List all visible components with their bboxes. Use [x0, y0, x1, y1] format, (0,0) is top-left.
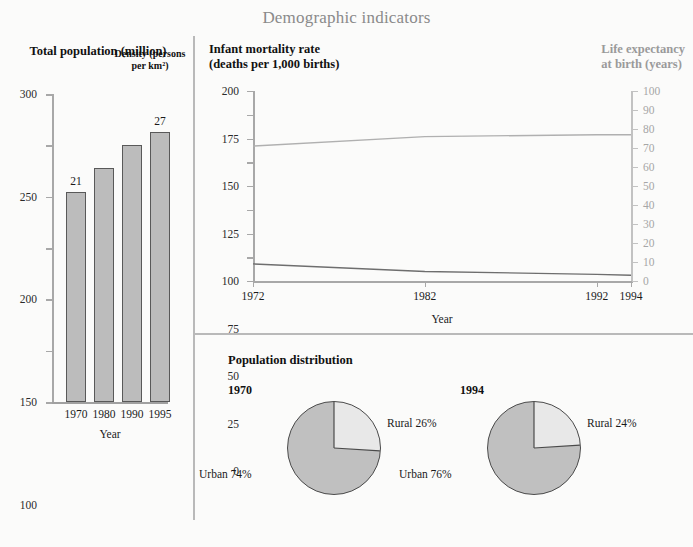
- page-title: Demographic indicators: [0, 8, 693, 28]
- pie-year-1970: 1970: [228, 383, 252, 398]
- pie-1994-urban-label: Urban 76%: [399, 468, 452, 480]
- line-x-tick-label-1992: 1992: [585, 290, 608, 302]
- line-x-axis-caption: Year: [253, 313, 631, 325]
- bar-value-label-1970: 21: [70, 175, 82, 187]
- population-distribution-panel: Population distribution 1970 Rural 26% U…: [195, 335, 693, 520]
- line-y-tick-label-left: 75: [228, 323, 240, 335]
- pie-chart-1970: [287, 401, 381, 495]
- line-y-tick-label-right: 10: [643, 256, 655, 268]
- pie-chart-1994: [487, 401, 581, 495]
- bar-y-tick-label: 200: [20, 293, 37, 305]
- line-chart-title-left-line2: (deaths per 1,000 births): [209, 57, 339, 72]
- line-y-tick-label-right: 100: [643, 85, 660, 97]
- bar-y-tick-label: 100: [20, 499, 37, 511]
- bar-x-label-1980: 1980: [93, 408, 116, 420]
- line-y-tick-label-right: 0: [643, 275, 649, 287]
- line-x-tick-label-1982: 1982: [413, 290, 436, 302]
- line-chart-title-right: Life expectancy at birth (years): [601, 42, 685, 72]
- density-annotation-text: Density (persons per km²): [115, 48, 186, 71]
- infant-mortality-life-expectancy-panel: Infant mortality rate (deaths per 1,000 …: [195, 36, 693, 333]
- bar-x-label-1970: 1970: [65, 408, 88, 420]
- pie-year-1994: 1994: [460, 383, 484, 398]
- line-series-life-expectancy-at-birth: [253, 135, 631, 146]
- bar-y-tick: 150: [46, 248, 52, 250]
- total-population-panel: Total population (million) Density (pers…: [0, 36, 193, 520]
- bar-x-label-1995: 1995: [149, 408, 172, 420]
- pie-1970-rural-label: Rural 26%: [387, 417, 437, 429]
- bar-y-tick: 100: [46, 299, 52, 301]
- content-area: Demographic indicators Total population …: [0, 0, 693, 520]
- line-chart-title-right-line1: Life expectancy: [601, 42, 685, 57]
- bar-1980: [94, 168, 114, 402]
- bar-y-tick: 300: [46, 94, 52, 96]
- line-y-tick-label-right: 80: [643, 123, 655, 135]
- bar-plot-area: 050100150200250300 1970198019901995 2127: [52, 94, 162, 404]
- line-x-tick-label-1972: 1972: [242, 290, 265, 302]
- bar-x-label-1990: 1990: [121, 408, 144, 420]
- bar-1970: [66, 192, 86, 402]
- bar-y-tick: 250: [46, 145, 52, 147]
- line-y-tick-label-left: 125: [222, 228, 239, 240]
- pie-section-title: Population distribution: [228, 353, 353, 368]
- pie-1970-urban-label: Urban 74%: [199, 468, 252, 480]
- bar-value-label-1995: 27: [154, 115, 166, 127]
- line-y-tick-label-left: 150: [222, 180, 239, 192]
- pie-separator-lines-1970: [287, 401, 381, 495]
- line-y-tick-label-left: 175: [222, 133, 239, 145]
- line-chart-title-right-line2: at birth (years): [601, 57, 685, 72]
- line-y-tick-label-left: 100: [222, 275, 239, 287]
- bar-y-tick-label: 150: [20, 396, 37, 408]
- line-y-tick-label-right: 40: [643, 199, 655, 211]
- line-y-tick-label-right: 50: [643, 180, 655, 192]
- bar-1995: [150, 132, 170, 402]
- bar-y-tick: 0: [46, 402, 52, 404]
- line-chart-title-left: Infant mortality rate (deaths per 1,000 …: [209, 42, 339, 72]
- bar-y-tick: 200: [46, 197, 52, 199]
- line-y-tick-label-right: 30: [643, 218, 655, 230]
- line-y-tick-label-right: 20: [643, 237, 655, 249]
- bar-y-tick-label: 300: [20, 88, 37, 100]
- line-y-tick-label-right: 60: [643, 161, 655, 173]
- bar-y-tick-label: 250: [20, 191, 37, 203]
- bar-1990: [122, 145, 142, 402]
- line-chart-title-left-line1: Infant mortality rate: [209, 42, 339, 57]
- line-plot-area: 0255075100125150175200 01020304050607080…: [253, 91, 631, 283]
- bar-x-axis: [52, 402, 168, 404]
- bar-y-axis: [52, 94, 54, 404]
- bar-x-axis-caption: Year: [52, 428, 168, 440]
- line-y-tick-label-right: 90: [643, 104, 655, 116]
- pie-1994-rural-label: Rural 24%: [587, 417, 637, 429]
- page-root: Demographic indicators Total population …: [0, 0, 693, 547]
- line-y-tick-label-right: 70: [643, 142, 655, 154]
- line-y-tick-label-left: 200: [222, 85, 239, 97]
- line-x-tick-label-1994: 1994: [620, 290, 643, 302]
- density-annotation-title: Density (persons per km²): [112, 48, 188, 72]
- pie-separator-lines-1994: [487, 401, 581, 495]
- line-series-infant-mortality-rate: [253, 264, 631, 275]
- line-series-svg: [253, 91, 633, 283]
- bar-y-tick: 50: [46, 351, 52, 353]
